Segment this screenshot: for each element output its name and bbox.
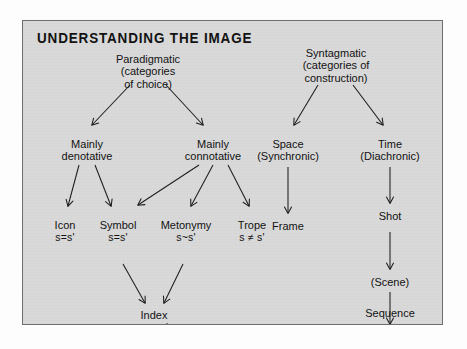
node-scene: (Scene) xyxy=(371,276,410,288)
edge-symbol-index xyxy=(123,264,145,303)
node-icon: Icon s=s' xyxy=(55,219,76,244)
node-sequence-label: Sequence xyxy=(365,307,415,319)
node-symbol-label: Symbol xyxy=(100,219,137,231)
node-symbol: Symbol s=s' xyxy=(100,219,137,244)
node-syntagmatic: Syntagmatic (categories of construction) xyxy=(303,47,370,84)
node-time-line1: Time xyxy=(360,138,419,150)
node-paradigmatic-line2: (categories xyxy=(116,65,180,77)
node-shot: Shot xyxy=(379,210,402,222)
node-syntagmatic-line3: construction) xyxy=(303,72,370,84)
edge-syntagmatic-time xyxy=(353,85,383,125)
node-mainly-denotative-line1: Mainly xyxy=(62,138,113,150)
edge-denotative-symbol xyxy=(95,165,111,206)
edge-paradigmatic-denotative xyxy=(92,85,130,125)
node-frame: Frame xyxy=(272,220,304,232)
edge-syntagmatic-space xyxy=(294,85,318,125)
node-frame-label: Frame xyxy=(272,220,304,232)
node-paradigmatic: Paradigmatic (categories of choice) xyxy=(116,53,180,90)
node-index-notation: s ≅ s' xyxy=(140,321,169,325)
node-mainly-connotative-line1: Mainly xyxy=(185,138,241,150)
edge-connotative-symbol xyxy=(138,165,199,205)
node-mainly-denotative-line2: denotative xyxy=(62,150,113,162)
diagram-page: UNDERSTANDING THE IMAGE xyxy=(0,0,467,349)
node-mainly-connotative-line2: connotative xyxy=(185,150,241,162)
node-trope-notation: s ≠ s' xyxy=(238,231,266,243)
edge-metonymy-index xyxy=(164,264,183,303)
node-paradigmatic-line3: of choice) xyxy=(116,78,180,90)
edge-paradigmatic-connotative xyxy=(166,85,203,125)
node-symbol-notation: s=s' xyxy=(100,231,137,243)
node-mainly-connotative: Mainly connotative xyxy=(185,138,241,163)
edge-connotative-metonymy xyxy=(191,165,213,206)
node-icon-notation: s=s' xyxy=(55,231,76,243)
node-syntagmatic-line1: Syntagmatic xyxy=(303,47,370,59)
node-trope-label: Trope xyxy=(238,219,266,231)
diagram-panel: UNDERSTANDING THE IMAGE xyxy=(22,20,443,325)
node-space-line1: Space xyxy=(257,138,319,150)
node-index-label: Index xyxy=(140,309,169,321)
node-space-line2: (Synchronic) xyxy=(257,150,319,162)
node-index: Index s ≅ s' xyxy=(140,309,169,325)
node-mainly-denotative: Mainly denotative xyxy=(62,138,113,163)
node-time: Time (Diachronic) xyxy=(360,138,419,163)
node-space: Space (Synchronic) xyxy=(257,138,319,163)
node-trope: Trope s ≠ s' xyxy=(238,219,266,244)
edge-denotative-icon xyxy=(68,165,79,206)
node-time-line2: (Diachronic) xyxy=(360,150,419,162)
node-shot-label: Shot xyxy=(379,210,402,222)
node-paradigmatic-line1: Paradigmatic xyxy=(116,53,180,65)
node-syntagmatic-line2: (categories of xyxy=(303,59,370,71)
node-metonymy-label: Metonymy xyxy=(161,219,212,231)
node-scene-label: (Scene) xyxy=(371,276,410,288)
node-metonymy-notation: s~s' xyxy=(161,231,212,243)
node-sequence: Sequence xyxy=(365,307,415,319)
edge-connotative-trope xyxy=(228,165,249,206)
node-icon-label: Icon xyxy=(55,219,76,231)
node-metonymy: Metonymy s~s' xyxy=(161,219,212,244)
